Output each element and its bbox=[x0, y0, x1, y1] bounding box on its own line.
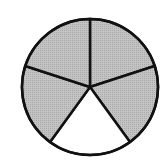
fraction-circle-diagram bbox=[0, 0, 166, 168]
